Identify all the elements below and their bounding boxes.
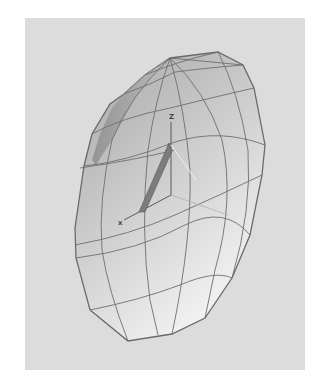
mesh-silhouette — [75, 52, 265, 341]
ellipsoid-viewport[interactable]: Z x — [0, 0, 325, 381]
x-axis-label: x — [118, 219, 123, 227]
z-axis-label: Z — [169, 113, 174, 121]
ellipsoid-mesh — [75, 52, 265, 341]
